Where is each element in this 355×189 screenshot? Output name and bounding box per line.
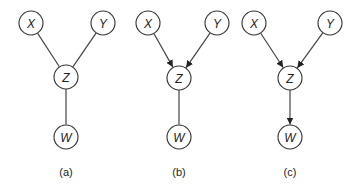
edge-b-x-z <box>154 33 173 67</box>
node-label: W <box>284 131 297 145</box>
node-label: X <box>26 17 36 31</box>
node-label: Z <box>174 72 183 86</box>
node-c-y: Y <box>318 11 342 35</box>
caption-b: (b) <box>172 166 185 178</box>
node-c-x: X <box>242 11 266 35</box>
caption-c: (c) <box>284 166 297 178</box>
graph-diagram: XYZWXYZWXYZW (a)(b)(c) <box>0 0 355 189</box>
node-label: W <box>60 131 73 145</box>
edge-b-y-z <box>186 33 210 68</box>
node-b-y: Y <box>205 11 229 35</box>
node-b-x: X <box>136 11 160 35</box>
node-label: X <box>143 17 153 31</box>
captions-layer: (a)(b)(c) <box>59 166 296 178</box>
edge-a-x-z <box>38 33 60 66</box>
node-a-z: Z <box>54 65 78 89</box>
nodes-layer: XYZWXYZWXYZW <box>19 11 342 149</box>
edge-c-y-z <box>297 33 323 68</box>
node-label: Y <box>99 17 108 31</box>
edge-a-y-z <box>73 33 96 67</box>
node-a-x: X <box>19 11 43 35</box>
caption-a: (a) <box>59 166 72 178</box>
node-label: Z <box>285 72 294 86</box>
node-b-w: W <box>167 125 191 149</box>
node-c-w: W <box>278 125 302 149</box>
node-label: Z <box>61 71 70 85</box>
node-label: Y <box>326 17 335 31</box>
node-label: Y <box>213 17 222 31</box>
node-label: X <box>249 17 259 31</box>
node-b-z: Z <box>167 66 191 90</box>
node-c-z: Z <box>278 66 302 90</box>
edge-c-x-z <box>261 33 284 68</box>
node-a-w: W <box>54 125 78 149</box>
node-a-y: Y <box>91 11 115 35</box>
node-label: W <box>173 131 186 145</box>
